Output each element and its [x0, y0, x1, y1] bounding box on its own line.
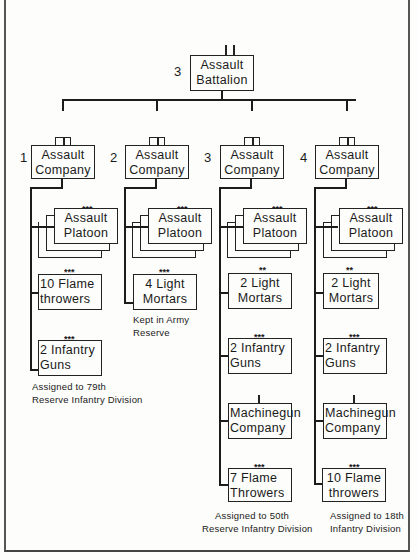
unit-box-infantry-guns: 2 Infantry Guns: [323, 338, 387, 374]
connector: [219, 187, 252, 189]
unit-box-infantry-guns: 2 Infantry Guns: [38, 340, 102, 376]
company-number: 2: [110, 150, 117, 165]
unit-box-light-mortars: 4 Light Mortars: [133, 274, 197, 310]
connector: [124, 187, 157, 189]
connector: [251, 99, 253, 111]
unit-label-line1: Assault: [152, 211, 208, 226]
company-number: 3: [204, 150, 211, 165]
connector: [30, 226, 54, 228]
note-line: Infantry Division: [330, 522, 404, 535]
unit-box-infantry-guns: 2 Infantry Guns: [228, 338, 292, 374]
unit-label-line1: Assault: [58, 211, 114, 226]
unit-box-assault-platoon: Assault Platoon: [243, 208, 307, 244]
company-2-note: Kept in Army Reserve: [133, 313, 189, 339]
company-box-3: Assault Company: [220, 145, 284, 179]
note-line: Assigned to 50th: [202, 509, 313, 522]
unit-label-line1: 10 Flame: [40, 277, 98, 292]
note-line: Kept in Army: [133, 313, 189, 326]
company-label-line2: Company: [319, 163, 375, 178]
unit-label-line2: Mortars: [137, 292, 193, 307]
unit-box-flame-throwers: 7 Flame Throwers: [228, 468, 292, 502]
unit-label-line1: 7 Flame: [230, 471, 288, 486]
unit-box-machinegun-company: Machinegun Company: [323, 403, 387, 439]
connector: [219, 226, 243, 228]
unit-label-line2: Guns: [325, 356, 383, 371]
unit-label-line2: throwers: [40, 292, 98, 307]
battalion-symbol-tick: [233, 45, 235, 55]
connector: [219, 292, 228, 294]
note-line: Assigned to 18th: [330, 509, 404, 522]
connector: [62, 99, 64, 111]
unit-label-line2: Company: [230, 421, 288, 436]
unit-label-line2: Guns: [40, 358, 98, 373]
unit-box-light-mortars: 2 Light Mortars: [228, 273, 292, 309]
unit-label-line2: Platoon: [152, 226, 208, 241]
unit-label-line1: Assault: [247, 211, 303, 226]
connector: [30, 292, 39, 294]
company-4-note: Assigned to 18th Infantry Division: [330, 509, 404, 535]
company-1-spine: [30, 187, 32, 370]
company-3-spine: [219, 187, 221, 485]
company-label-line1: Assault: [319, 148, 375, 163]
connector: [156, 99, 158, 111]
company-symbol: [339, 137, 355, 145]
company-symbol: [244, 137, 260, 145]
company-1-note: Assigned to 79th Reserve Infantry Divisi…: [32, 380, 143, 406]
note-line: Reserve Infantry Division: [202, 522, 313, 535]
battalion-symbol-tick: [225, 45, 227, 55]
unit-label-line1: Machinegun: [230, 406, 288, 421]
connector: [346, 99, 348, 111]
unit-box-light-mortars: 2 Light Mortars: [323, 273, 379, 309]
note-line: Reserve Infantry Division: [32, 393, 143, 406]
connector: [219, 484, 228, 486]
company-bus-line: [62, 99, 356, 101]
note-line: Reserve: [133, 326, 189, 339]
connector: [314, 292, 323, 294]
unit-label-line2: Platoon: [343, 226, 399, 241]
company-label-line2: Company: [224, 163, 280, 178]
unit-label-line1: 2 Light: [232, 276, 288, 291]
company-label-line2: Company: [129, 163, 185, 178]
unit-label-line1: 4 Light: [137, 277, 193, 292]
unit-label-line2: Guns: [230, 356, 288, 371]
unit-label-line1: 10 Flame: [326, 471, 382, 486]
company-4-spine: [314, 187, 316, 484]
unit-box-machinegun-company: Machinegun Company: [228, 403, 292, 439]
battalion-number: 3: [174, 64, 181, 79]
connector: [124, 302, 133, 304]
unit-label-line2: throwers: [326, 486, 382, 501]
unit-label-line1: 2 Light: [327, 276, 375, 291]
company-box-2: Assault Company: [125, 145, 189, 179]
unit-label-line1: Assault: [343, 211, 399, 226]
battalion-label-line2: Battalion: [194, 73, 250, 88]
unit-label-line2: Mortars: [327, 291, 375, 306]
unit-label-line1: 2 Infantry: [230, 341, 288, 356]
company-symbol: [149, 137, 165, 145]
company-label-line1: Assault: [35, 148, 91, 163]
connector: [219, 355, 228, 357]
unit-label-line1: Machinegun: [325, 406, 383, 421]
unit-label-line2: Platoon: [247, 226, 303, 241]
company-label-line1: Assault: [224, 148, 280, 163]
unit-box-assault-platoon: Assault Platoon: [148, 208, 212, 244]
unit-label-line2: Platoon: [58, 226, 114, 241]
company-3-note: Assigned to 50th Reserve Infantry Divisi…: [202, 509, 313, 535]
battalion-label-line1: Assault: [194, 58, 250, 73]
note-line: Assigned to 79th: [32, 380, 143, 393]
unit-label-line2: Company: [325, 421, 383, 436]
unit-box-assault-platoon: Assault Platoon: [54, 208, 118, 244]
company-2-spine: [124, 187, 126, 303]
connector: [219, 420, 228, 422]
connector: [314, 420, 323, 422]
company-symbol: [55, 137, 71, 145]
company-number: 4: [300, 150, 307, 165]
connector: [314, 355, 323, 357]
unit-box-flame-throwers: 10 Flame throwers: [38, 274, 102, 310]
company-label-line2: Company: [35, 163, 91, 178]
company-box-4: Assault Company: [315, 145, 379, 179]
battalion-box: Assault Battalion: [190, 55, 254, 91]
company-box-1: Assault Company: [31, 145, 95, 179]
unit-label-line1: 2 Infantry: [40, 343, 98, 358]
unit-label-line2: Throwers: [230, 486, 288, 501]
connector: [124, 226, 148, 228]
